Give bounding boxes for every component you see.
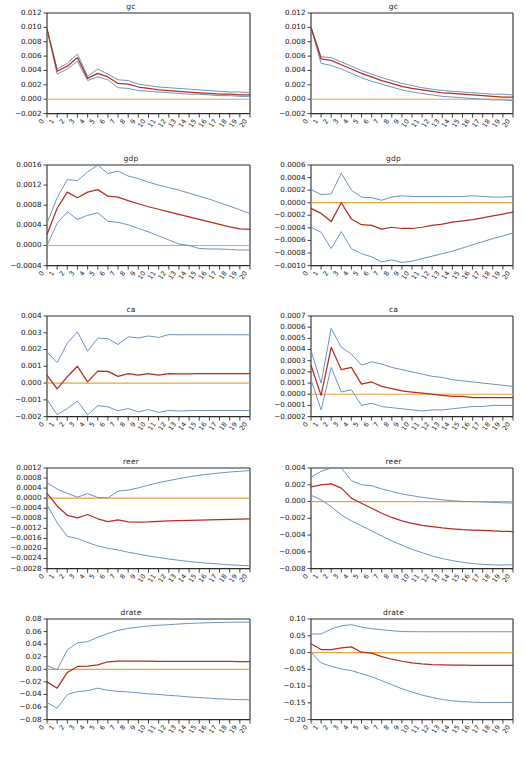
x-tick-label: 12 bbox=[420, 572, 431, 583]
x-tick-label: 3 bbox=[68, 421, 77, 429]
x-tick-label: 5 bbox=[88, 572, 97, 580]
y-tick-label: −0.004 bbox=[279, 530, 306, 539]
series-line-upper bbox=[311, 468, 513, 503]
y-tick-label: −0.002 bbox=[279, 109, 306, 118]
x-tick-label: 7 bbox=[372, 421, 381, 429]
x-tick-label: 10 bbox=[136, 118, 147, 129]
x-tick-label: 15 bbox=[450, 724, 461, 735]
x-tick-label: 18 bbox=[481, 269, 492, 280]
x-tick-label: 18 bbox=[217, 421, 228, 432]
y-tick-label: 0.004 bbox=[21, 311, 42, 320]
chart-panel-ca-left: ca0.0040.0030.0020.0010.000−0.001−0.0020… bbox=[0, 303, 262, 455]
x-tick-label: 13 bbox=[430, 724, 441, 735]
x-tick-label: 11 bbox=[410, 269, 421, 280]
x-tick-label: 12 bbox=[420, 421, 431, 432]
x-tick-label: 0 bbox=[301, 572, 310, 580]
y-tick-label: 0.000 bbox=[21, 94, 42, 103]
x-tick-label: 6 bbox=[362, 724, 371, 732]
x-tick-label: 16 bbox=[460, 724, 471, 735]
x-tick-label: 7 bbox=[108, 269, 117, 277]
x-tick-label: 20 bbox=[238, 724, 249, 735]
x-tick-label: 4 bbox=[78, 572, 87, 580]
x-tick-label: 10 bbox=[400, 572, 411, 583]
x-tick-label: 7 bbox=[108, 724, 117, 732]
x-tick-label: 15 bbox=[450, 118, 461, 129]
x-tick-label: 2 bbox=[321, 724, 330, 732]
plot-area-ca-right: 0.00070.00060.00050.00040.00030.00020.00… bbox=[262, 303, 525, 455]
y-tick-label: 0.0012 bbox=[16, 180, 41, 189]
y-tick-label: −0.002 bbox=[15, 412, 42, 421]
x-tick-label: 0 bbox=[37, 421, 46, 429]
y-tick-label: −0.0002 bbox=[274, 412, 305, 421]
series-line-mid bbox=[311, 347, 513, 397]
x-tick-label: 2 bbox=[321, 118, 330, 126]
x-tick-label: 3 bbox=[331, 421, 340, 429]
x-tick-label: 13 bbox=[430, 118, 441, 129]
x-tick-label: 14 bbox=[440, 572, 451, 583]
y-tick-label: 0.0004 bbox=[16, 220, 42, 229]
x-tick-label: 2 bbox=[321, 421, 330, 429]
x-tick-label: 18 bbox=[481, 118, 492, 129]
x-tick-label: 4 bbox=[78, 269, 87, 277]
y-tick-label: 0.000 bbox=[285, 94, 306, 103]
y-tick-label: −0.08 bbox=[19, 715, 41, 724]
y-tick-label: −0.0008 bbox=[274, 248, 306, 257]
x-tick-label: 11 bbox=[146, 269, 157, 280]
x-tick-label: 11 bbox=[146, 421, 157, 432]
x-tick-label: 13 bbox=[167, 421, 178, 432]
x-tick-label: 15 bbox=[450, 572, 461, 583]
x-tick-label: 10 bbox=[400, 269, 411, 280]
chart-panel-gdp-right: gdp0.00060.00040.00020.0000−0.0002−0.000… bbox=[262, 152, 525, 304]
x-tick-label: 7 bbox=[108, 572, 117, 580]
series-line-mid bbox=[47, 189, 250, 234]
x-tick-label: 4 bbox=[342, 724, 351, 732]
x-tick-label: 8 bbox=[382, 118, 391, 126]
y-tick-label: 0.0006 bbox=[280, 160, 306, 169]
x-tick-label: 6 bbox=[362, 572, 371, 580]
series-line-lower bbox=[47, 689, 250, 709]
x-tick-label: 3 bbox=[331, 269, 340, 277]
x-tick-label: 10 bbox=[400, 421, 411, 432]
y-tick-label: 0.05 bbox=[289, 631, 305, 640]
x-tick-label: 19 bbox=[228, 269, 239, 280]
x-tick-label: 0 bbox=[37, 572, 46, 580]
x-tick-label: 17 bbox=[470, 118, 481, 129]
x-tick-label: 2 bbox=[57, 572, 66, 580]
x-tick-label: 0 bbox=[301, 421, 310, 429]
y-tick-label: 0.004 bbox=[285, 463, 306, 472]
x-tick-label: 12 bbox=[157, 269, 168, 280]
y-tick-label: 0.0012 bbox=[16, 463, 41, 472]
y-tick-label: −0.0006 bbox=[274, 235, 306, 244]
x-tick-label: 14 bbox=[177, 724, 188, 735]
chart-panel-reer-right: reer0.0040.0020.000−0.002−0.004−0.006−0.… bbox=[262, 455, 525, 607]
x-tick-label: 3 bbox=[68, 118, 77, 126]
series-line-lower bbox=[47, 504, 250, 565]
series-line-lower bbox=[311, 653, 513, 703]
x-tick-label: 3 bbox=[68, 269, 77, 277]
x-tick-label: 5 bbox=[352, 118, 361, 126]
x-tick-label: 2 bbox=[321, 269, 330, 277]
y-tick-label: 0.0004 bbox=[16, 483, 42, 492]
x-tick-label: 12 bbox=[157, 572, 168, 583]
x-tick-label: 18 bbox=[481, 421, 492, 432]
x-tick-label: 6 bbox=[362, 421, 371, 429]
x-tick-label: 6 bbox=[98, 421, 107, 429]
x-tick-label: 0 bbox=[37, 269, 46, 277]
y-tick-label: 0.002 bbox=[21, 345, 42, 354]
x-tick-label: 5 bbox=[88, 421, 97, 429]
y-tick-label: −0.0004 bbox=[10, 503, 42, 512]
series-line-lower bbox=[47, 29, 250, 97]
x-tick-label: 8 bbox=[118, 724, 127, 732]
x-tick-label: 2 bbox=[57, 118, 66, 126]
y-tick-label: −0.001 bbox=[15, 395, 42, 404]
y-tick-label: 0.012 bbox=[285, 8, 306, 17]
y-tick-label: 0.00 bbox=[25, 665, 41, 674]
x-tick-label: 5 bbox=[88, 118, 97, 126]
x-tick-label: 12 bbox=[157, 421, 168, 432]
x-tick-label: 12 bbox=[420, 724, 431, 735]
x-tick-label: 15 bbox=[187, 269, 198, 280]
x-tick-label: 14 bbox=[440, 724, 451, 735]
x-tick-label: 1 bbox=[311, 118, 320, 126]
x-tick-label: 16 bbox=[197, 421, 208, 432]
chart-panel-reer-left: reer0.00120.00080.00040.0000−0.0004−0.00… bbox=[0, 455, 262, 607]
